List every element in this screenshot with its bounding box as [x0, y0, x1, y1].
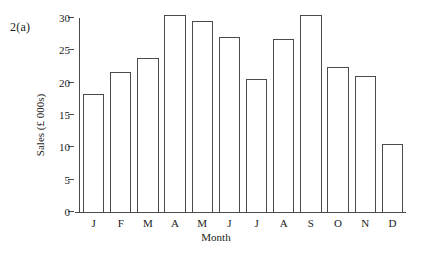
y-tick-label: 0 — [65, 206, 71, 218]
figure-root: 2(a) Sales (£ 000s) 051015202530 JFMAMJJ… — [0, 0, 432, 261]
bar-september — [300, 15, 321, 212]
x-axis-line — [75, 212, 406, 213]
y-tick-label: 20 — [59, 77, 70, 89]
bar-august — [273, 39, 294, 212]
x-axis-title: Month — [0, 231, 432, 243]
x-tick-label-march: M — [134, 217, 161, 229]
bar-november — [355, 76, 376, 212]
x-tick-label-april: A — [162, 217, 189, 229]
y-axis-title: Sales (£ 000s) — [34, 94, 46, 156]
bar-april — [164, 15, 185, 212]
x-tick-label-october: O — [325, 217, 352, 229]
x-tick-label-may: M — [189, 217, 216, 229]
y-axis-title-container: Sales (£ 000s) — [31, 60, 49, 190]
x-tick-label-august: A — [270, 217, 297, 229]
bar-october — [327, 67, 348, 212]
bar-march — [137, 58, 158, 212]
x-tick-label-february: F — [107, 217, 134, 229]
x-tick-label-december: D — [379, 217, 406, 229]
bar-may — [192, 21, 213, 212]
y-tick-label: 10 — [59, 141, 70, 153]
y-tick-label: 15 — [59, 109, 70, 121]
x-tick-label-june: J — [216, 217, 243, 229]
x-tick-label-july: J — [243, 217, 270, 229]
x-tick-label-november: N — [352, 217, 379, 229]
bar-december — [382, 144, 403, 212]
y-tick-label: 30 — [59, 12, 70, 24]
figure-label: 2(a) — [10, 20, 30, 35]
x-tick-label-september: S — [297, 217, 324, 229]
bar-july — [246, 79, 267, 212]
bar-february — [110, 72, 131, 212]
y-tick-label: 25 — [59, 44, 70, 56]
y-tick-label: 5 — [65, 174, 71, 186]
x-tick-label-january: J — [80, 217, 107, 229]
plot-area: 051015202530 JFMAMJJASOND — [80, 18, 406, 212]
bar-june — [219, 37, 240, 212]
bar-january — [83, 94, 104, 212]
y-axis-line — [79, 18, 80, 213]
